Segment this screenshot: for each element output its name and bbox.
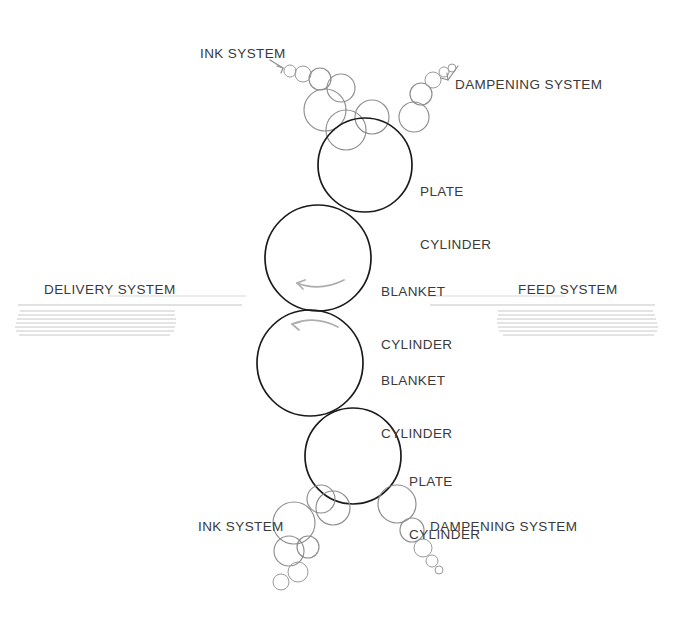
- rotation-arrow-upper-blanket: [297, 280, 344, 289]
- press-diagram-svg: [0, 0, 673, 634]
- ink-system-bottom-rollers: [273, 485, 350, 590]
- label-blanket-cylinder-upper-line1: BLANKET: [381, 283, 452, 301]
- label-ink-system-top: INK SYSTEM: [200, 45, 286, 62]
- rotation-arrow-lower-blanket: [292, 320, 338, 330]
- label-dampening-system-top: DAMPENING SYSTEM: [455, 76, 602, 93]
- blanket-cylinder-upper: [265, 205, 371, 311]
- label-blanket-cylinder-lower-line1: BLANKET: [381, 372, 452, 390]
- label-plate-cylinder-bottom: PLATE CYLINDER: [409, 438, 480, 578]
- delivery-paper-stack: [15, 311, 176, 335]
- feed-paper-stack: [497, 311, 658, 335]
- label-plate-cylinder-bottom-line1: PLATE: [409, 473, 480, 491]
- label-feed-system: FEED SYSTEM: [518, 281, 618, 298]
- label-delivery-system: DELIVERY SYSTEM: [44, 281, 176, 298]
- blanket-cylinder-lower: [257, 310, 363, 416]
- ink-system-top-rollers: [284, 65, 389, 150]
- label-dampening-system-bottom: DAMPENING SYSTEM: [430, 518, 577, 535]
- label-plate-cylinder-top-line1: PLATE: [420, 183, 491, 201]
- press-diagram: INK SYSTEM DAMPENING SYSTEM PLATE CYLIND…: [0, 0, 673, 634]
- label-ink-system-bottom: INK SYSTEM: [198, 518, 284, 535]
